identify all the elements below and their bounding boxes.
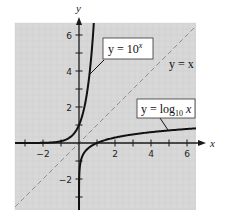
exp-label-main: y = 10 <box>108 42 139 56</box>
log-label-tail: x <box>183 102 192 116</box>
x-tick-label: −2 <box>36 149 49 159</box>
y-axis-arrow-icon <box>76 17 82 25</box>
x-tick-label: 4 <box>148 149 154 159</box>
y-tick-label: −2 <box>59 175 72 185</box>
y-tick-label: 4 <box>66 67 72 77</box>
x-axis-arrow-icon <box>198 140 206 146</box>
log-label: y = log10 x <box>141 102 192 118</box>
chart: −2246 −2246 x y y = 10x y = x y = log10 … <box>0 0 226 220</box>
x-axis-label: x <box>209 137 215 149</box>
x-tick-label: 6 <box>184 149 190 159</box>
log-label-sub: 10 <box>175 109 183 118</box>
log-label-main: y = log <box>141 102 175 116</box>
y-tick-label: 6 <box>66 31 72 41</box>
x-tick-label: 2 <box>112 149 118 159</box>
y-tick-label: 2 <box>66 103 72 113</box>
exp-label: y = 10x <box>108 41 143 56</box>
identity-label: y = x <box>169 57 194 71</box>
exp-label-sup: x <box>138 41 143 50</box>
y-axis-label: y <box>75 2 81 14</box>
